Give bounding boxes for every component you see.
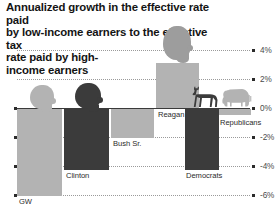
ytick-label-0: 0%: [260, 104, 272, 113]
bar-label-clinton: Clinton: [66, 171, 89, 180]
tick-dot-right-m4: [252, 165, 255, 168]
bar-label-gw: GW: [19, 197, 32, 206]
elephant-icon: [221, 86, 253, 109]
tick-dot-right-4: [252, 49, 255, 52]
ytick-label-m2: -2%: [260, 133, 274, 142]
bar-clinton: [64, 109, 109, 170]
ytick-label-m4: -4%: [260, 162, 274, 171]
bar-label-republicans: Republicans: [220, 118, 261, 127]
bar-gw: [17, 109, 62, 196]
head-silhouette-gw-icon: [30, 85, 54, 109]
bar-democrats: [185, 109, 219, 170]
bar-label-reagan: Reagan: [158, 110, 184, 119]
gridline-2: [17, 79, 250, 80]
plot-area: 4% 2% 0% -2% -4% -6% GW Clinton Bush Sr.…: [0, 0, 280, 211]
tick-dot-right-2: [252, 78, 255, 81]
ytick-label-2: 2%: [260, 75, 272, 84]
tick-dot-right-m2: [252, 136, 255, 139]
head-silhouette-reagan-icon: [163, 26, 191, 60]
bar-label-bush-sr: Bush Sr.: [113, 139, 141, 148]
bar-bush-sr: [111, 109, 154, 138]
head-silhouette-bush-sr-icon: [119, 96, 120, 97]
chart-container: Annualized growth in the effective rate …: [0, 0, 280, 211]
head-silhouette-clinton-icon: [75, 83, 101, 109]
gridline-4: [17, 50, 250, 51]
tick-dot-right-m6: [252, 194, 255, 197]
ytick-label-4: 4%: [260, 46, 272, 55]
donkey-icon: [190, 86, 220, 109]
bar-label-democrats: Democrats: [186, 171, 222, 180]
ytick-label-m6: -6%: [260, 191, 274, 200]
bar-republicans: [219, 109, 251, 115]
